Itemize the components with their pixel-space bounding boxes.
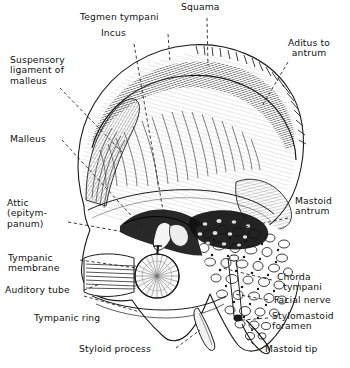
label-mastoid-tip: Mastoid tip xyxy=(265,344,318,354)
label-aditus-to-antrum: Aditus to antrum xyxy=(274,38,344,59)
label-suspensory-ligament-of-malleus: Suspensory ligament of malleus xyxy=(10,55,65,86)
label-tegmen-tympani: Tegmen tympani xyxy=(80,12,159,22)
label-stylomastoid-foramen: Stylomastoid foramen xyxy=(272,311,334,332)
label-incus: Incus xyxy=(101,28,126,38)
label-styloid-process: Styloid process xyxy=(79,344,151,354)
tympanic-membrane xyxy=(133,252,181,300)
label-auditory-tube: Auditory tube xyxy=(5,285,70,295)
tympanic-ring xyxy=(92,296,226,318)
label-attic-epitympanum: Attic (epitym- panum) xyxy=(7,198,47,229)
leader-tympanic-ring xyxy=(84,296,140,312)
leader-attic xyxy=(68,222,124,232)
label-tympanic-ring: Tympanic ring xyxy=(34,313,100,323)
label-facial-nerve: Facial nerve xyxy=(274,295,331,305)
label-malleus: Malleus xyxy=(10,134,46,144)
label-mastoid-antrum: Mastoid antrum xyxy=(295,196,332,217)
figure-caption xyxy=(0,358,350,368)
label-squama: Squama xyxy=(181,2,220,12)
label-tympanic-membrane: Tympanic membrane xyxy=(8,253,59,274)
label-chorda-tympani: Chorda tympani xyxy=(277,272,322,293)
stylomastoid-foramen xyxy=(233,315,242,322)
auditory-tube xyxy=(84,254,136,297)
styloid-process xyxy=(194,308,215,351)
leader-styloid-process xyxy=(176,330,200,348)
